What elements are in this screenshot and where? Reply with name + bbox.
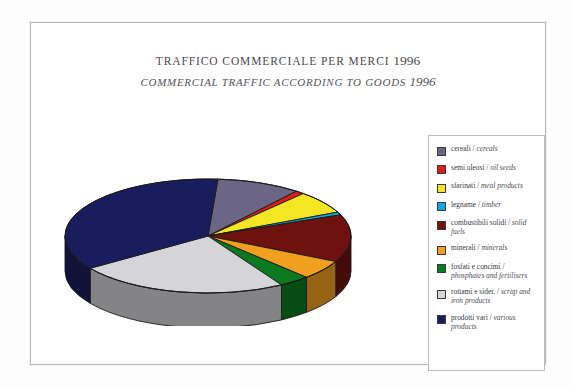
legend-item-label: cereali / cereals [451, 145, 498, 154]
legend-swatch-icon [437, 246, 446, 255]
legend-item-label: minerali / minerals [451, 244, 507, 253]
legend-swatch-icon [437, 290, 446, 299]
legend-item: rottami e sider. / scrap and iron produc… [437, 288, 538, 305]
legend-swatch-icon [437, 221, 446, 230]
legend-label-en: timber [482, 200, 501, 209]
legend-label-en: cereals [476, 144, 497, 153]
legend-label-en: minerals [481, 243, 507, 252]
legend-item: cereali / cereals [437, 145, 538, 156]
legend-label-en: phosphates and fertilisers [451, 271, 527, 280]
pie-top-faces [65, 179, 351, 293]
legend-label-it: fosfati e concimi [451, 262, 501, 271]
pie-chart [64, 161, 394, 326]
legend-label-it: legname [451, 200, 476, 209]
legend-item-label: legname / timber [451, 201, 501, 210]
chart-page: TRAFFICO COMMERCIALE PER MERCI 1996 COMM… [0, 0, 571, 386]
legend-swatch-icon [437, 315, 446, 324]
page-title: TRAFFICO COMMERCIALE PER MERCI 1996 [31, 53, 545, 69]
legend-label-en: oil seeds [490, 163, 516, 172]
legend-item: legname / timber [437, 201, 538, 212]
legend-label-separator: / [501, 262, 505, 271]
legend-label-it: semi oleosi [451, 163, 484, 172]
legend-label-it: minerali [451, 243, 476, 252]
legend-swatch-icon [437, 264, 446, 273]
legend-label-en: meal products [481, 181, 523, 190]
legend-item: minerali / minerals [437, 244, 538, 255]
legend-item-label: prodotti vari / various products [451, 314, 538, 331]
legend-item-label: combustibili solidi / solid fuels [451, 219, 538, 236]
title-italian-year: 1996 [393, 53, 420, 68]
legend-item: fosfati e concimi / phosphates and ferti… [437, 263, 538, 280]
title-block: TRAFFICO COMMERCIALE PER MERCI 1996 COMM… [31, 53, 545, 90]
legend-label-it: cereali [451, 144, 471, 153]
legend-label-it: prodotti vari [451, 313, 488, 322]
pie-chart-svg [64, 161, 394, 326]
legend-item-label: sfarinati / meal products [451, 182, 523, 191]
legend-item: semi oleosi / oil seeds [437, 164, 538, 175]
title-english-text: COMMERCIAL TRAFFIC ACCORDING TO GOODS [141, 76, 406, 88]
legend-swatch-icon [437, 147, 446, 156]
legend-swatch-icon [437, 165, 446, 174]
title-italian-text: TRAFFICO COMMERCIALE PER MERCI [156, 55, 390, 67]
chart-legend: cereali / cerealssemi oleosi / oil seeds… [428, 135, 545, 371]
legend-item-label: rottami e sider. / scrap and iron produc… [451, 288, 538, 305]
legend-label-it: sfarinati [451, 181, 475, 190]
legend-item: prodotti vari / various products [437, 314, 538, 331]
page-subtitle: COMMERCIAL TRAFFIC ACCORDING TO GOODS 19… [31, 74, 545, 90]
legend-label-it: combustibili solidi [451, 218, 506, 227]
legend-item: combustibili solidi / solid fuels [437, 219, 538, 236]
title-english-year: 1996 [409, 74, 435, 89]
legend-item-label: fosfati e concimi / phosphates and ferti… [451, 263, 538, 280]
chart-plate: TRAFFICO COMMERCIALE PER MERCI 1996 COMM… [30, 22, 546, 365]
legend-item: sfarinati / meal products [437, 182, 538, 193]
legend-label-it: rottami e sider. [451, 287, 495, 296]
legend-item-label: semi oleosi / oil seeds [451, 164, 516, 173]
legend-swatch-icon [437, 202, 446, 211]
legend-swatch-icon [437, 184, 446, 193]
